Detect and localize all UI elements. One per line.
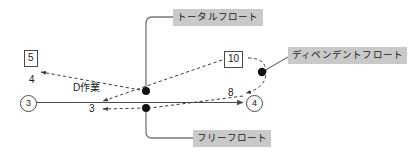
callout-free-float: フリーフロート: [193, 130, 271, 147]
free-float-measure-dashed-upper: [103, 60, 222, 101]
free-float-measure-dashed-lower: [103, 108, 146, 109]
plain-number-four-left: 4: [29, 75, 35, 85]
event-node-start: 3: [20, 95, 37, 112]
float-diagram-canvas: トータルフロート ディペンデントフロート フリーフロート 5 10 3 4 4 …: [0, 0, 411, 160]
activity-label-d: D作業: [73, 83, 100, 93]
plain-number-three-mid: 3: [89, 104, 95, 114]
event-node-end: 4: [246, 95, 263, 112]
callout-total-float: トータルフロート: [173, 9, 263, 26]
free-float-junction-dot: [142, 104, 150, 112]
total-float-leader-line: [146, 17, 173, 91]
boxed-number-left: 5: [24, 50, 38, 67]
total-float-junction-dot: [142, 87, 150, 95]
dependent-float-junction-dot: [258, 68, 266, 76]
free-float-leader-line: [146, 108, 193, 138]
plain-number-eight-right: 8: [228, 88, 234, 98]
boxed-number-right: 10: [224, 51, 243, 68]
callout-dependent-float: ディペンデントフロート: [288, 47, 407, 64]
